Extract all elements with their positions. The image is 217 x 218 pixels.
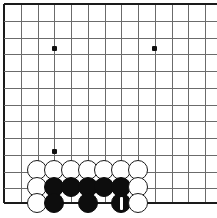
go-board[interactable] — [0, 0, 217, 218]
move-number-1 — [120, 197, 123, 210]
board-move-marker-layer — [0, 0, 217, 218]
